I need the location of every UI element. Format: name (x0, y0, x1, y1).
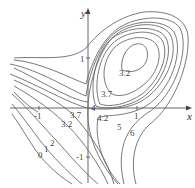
contour-3.7-inner (104, 38, 159, 96)
y-axis-label: y (80, 7, 86, 19)
level-label-3.2-inner: 3.2 (119, 68, 130, 78)
y-axis-arrow-icon (86, 8, 91, 14)
level-label-3.2-lower: 3.2 (61, 119, 72, 129)
level-label-5: 5 (117, 122, 122, 132)
contour-3.7-lower (14, 80, 114, 184)
contour-plot: y x -1 1 1 -1 3.2 3.7 4 4.2 5 6 3.7 3.2 … (0, 0, 195, 188)
x-axis-label: x (186, 110, 192, 122)
contour-neg1 (14, 92, 38, 112)
level-label-4: 4 (91, 103, 96, 113)
level-label-6: 6 (130, 128, 135, 138)
tick-label-x-1: 1 (134, 111, 139, 121)
level-label-0: 0 (38, 150, 43, 160)
level-label-4.2: 4.2 (97, 113, 108, 123)
tick-label-y-neg1: -1 (76, 152, 84, 162)
level-label-3.7-inner: 3.7 (101, 89, 113, 99)
tick-label-x-neg1: -1 (34, 111, 42, 121)
level-label-1: 1 (44, 144, 49, 154)
tick-label-y-1: 1 (80, 54, 85, 64)
level-label-2: 2 (50, 138, 55, 148)
